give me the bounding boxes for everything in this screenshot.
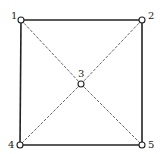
node-5-circle-icon bbox=[139, 142, 145, 148]
edge-2-3 bbox=[81, 20, 142, 84]
edge-3-4 bbox=[20, 84, 81, 145]
node-2-label: 2 bbox=[148, 10, 154, 21]
node-4-circle-icon bbox=[17, 142, 23, 148]
edge-1-3 bbox=[21, 20, 81, 84]
node-3-label: 3 bbox=[78, 68, 84, 79]
node-1-label: 1 bbox=[11, 10, 17, 21]
node-1-circle-icon bbox=[18, 17, 24, 23]
graph-diagram: 12345 bbox=[0, 0, 162, 154]
node-5-label: 5 bbox=[148, 139, 154, 150]
node-4-label: 4 bbox=[8, 139, 14, 150]
labels-group: 12345 bbox=[8, 10, 154, 150]
edge-3-5 bbox=[81, 84, 142, 145]
node-2-circle-icon bbox=[139, 17, 145, 23]
edge-4-1 bbox=[20, 20, 21, 145]
node-3-circle-icon bbox=[78, 81, 84, 87]
